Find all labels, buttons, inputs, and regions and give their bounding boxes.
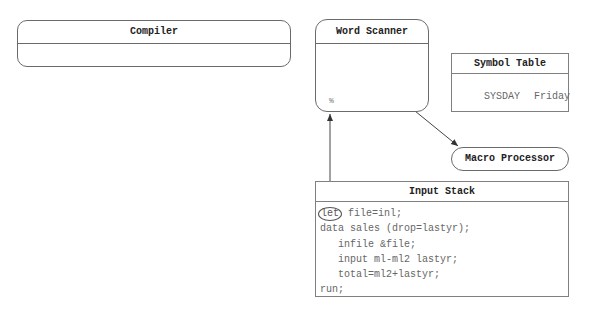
highlighted-token: let <box>318 207 342 221</box>
word-scanner-title: Word Scanner <box>316 20 428 44</box>
compiler-box: Compiler <box>17 20 291 67</box>
scanner-to-macro-arrow <box>415 111 458 146</box>
code-line: run; <box>320 282 470 297</box>
code-line: input ml-ml2 lastyr; <box>320 252 470 267</box>
code-line: data sales (drop=lastyr); <box>320 221 470 236</box>
scanner-token: % <box>329 96 334 105</box>
code-line: let file=inl; <box>320 206 470 221</box>
symbol-name: SYSDAY <box>484 91 520 102</box>
code-line: total=ml2+lastyr; <box>320 267 470 282</box>
code-line: infile &file; <box>320 237 470 252</box>
input-stack-code: let file=inl; data sales (drop=lastyr); … <box>320 206 470 298</box>
symbol-table-title: Symbol Table <box>452 54 568 74</box>
input-stack-title: Input Stack <box>316 182 568 202</box>
macro-processor-box: Macro Processor <box>451 147 569 171</box>
word-scanner-box: Word Scanner % <box>315 19 429 112</box>
input-stack-box: Input Stack let file=inl; data sales (dr… <box>315 181 569 297</box>
symbol-value: Friday <box>534 91 570 102</box>
symbol-table-box: Symbol Table SYSDAYFriday <box>451 53 569 112</box>
compiler-title: Compiler <box>18 21 290 44</box>
symbol-table-row: SYSDAYFriday <box>460 80 570 113</box>
